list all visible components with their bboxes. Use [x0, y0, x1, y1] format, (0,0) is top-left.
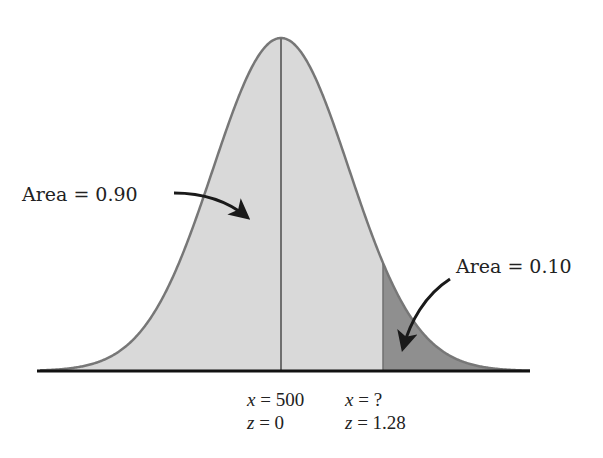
area-region-right-tail — [383, 263, 530, 371]
cutoff-z-label: z = 1.28 — [344, 412, 406, 433]
cutoff-x-label: x = ? — [344, 389, 382, 410]
right-area-label: Area = 0.10 — [455, 255, 572, 277]
left-area-label: Area = 0.90 — [21, 183, 138, 205]
mean-z-label: z = 0 — [246, 412, 284, 433]
normal-distribution-diagram: Area = 0.90 Area = 0.10 x = 500 z = 0 x … — [0, 0, 603, 458]
mean-x-label: x = 500 — [246, 389, 304, 410]
